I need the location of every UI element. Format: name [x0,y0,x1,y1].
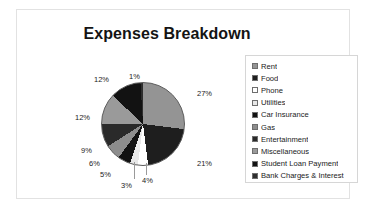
legend-label-phone: Phone [261,86,283,95]
legend-item-bank-charges-interest[interactable]: Bank Charges & Interest [252,170,357,182]
legend-label-car-insurance: Car Insurance [261,110,309,119]
legend-label-utilities: Utilities [261,98,285,107]
legend-swatch-bank-charges-interest [252,173,258,179]
chart-title: Expenses Breakdown [17,25,317,43]
legend-item-miscellaneous[interactable]: Miscellaneous [252,145,357,157]
legend-label-student-loan-payment: Student Loan Payment [261,159,338,168]
legend-swatch-car-insurance [252,112,258,118]
legend-swatch-gas [252,124,258,130]
legend-label-gas: Gas [261,123,275,132]
legend-label-miscellaneous: Miscellaneous [261,147,309,156]
legend-item-utilities[interactable]: Utilities [252,97,357,109]
legend-item-phone[interactable]: Phone [252,84,357,96]
pie-label-food: 21% [197,159,212,168]
legend-item-gas[interactable]: Gas [252,121,357,133]
legend-item-food[interactable]: Food [252,72,357,84]
pie-label-utilities: 3% [121,181,132,190]
leader-line-phone [146,163,147,175]
legend-item-entertainment[interactable]: Entertainment [252,133,357,145]
pie-label-rent: 27% [197,89,212,98]
legend-item-rent[interactable]: Rent [252,60,357,72]
legend-item-student-loan-payment[interactable]: Student Loan Payment [252,158,357,170]
pie-label-student-loan: 12% [94,75,109,84]
pie-label-entertainment: 9% [81,146,92,155]
pie-label-miscellaneous: 12% [75,113,90,122]
pie-label-gas: 6% [89,159,100,168]
chart-legend: Rent Food Phone Utilities Car Insurance … [245,55,358,183]
legend-label-bank-charges-interest: Bank Charges & Interest [261,171,344,180]
slide-canvas: Expenses Breakdown 27% 21% 4% 3% 5% 6% 9… [0,0,370,211]
legend-swatch-miscellaneous [252,148,258,154]
legend-swatch-student-loan-payment [252,161,258,167]
slide-frame: Expenses Breakdown 27% 21% 4% 3% 5% 6% 9… [16,9,350,199]
legend-label-food: Food [261,74,278,83]
legend-swatch-entertainment [252,136,258,142]
legend-item-car-insurance[interactable]: Car Insurance [252,109,357,121]
legend-label-entertainment: Entertainment [261,135,308,144]
legend-swatch-food [252,75,258,81]
pie-label-bank-charges: 1% [129,72,140,81]
pie-graphic [101,82,185,166]
pie-label-phone: 4% [142,176,153,185]
legend-swatch-rent [252,63,258,69]
pie-label-car-insurance: 5% [100,170,111,179]
legend-label-rent: Rent [261,62,277,71]
pie-chart: 27% 21% 4% 3% 5% 6% 9% 12% 12% 1% [45,62,250,207]
leader-line-utilities [134,162,135,179]
legend-swatch-phone [252,87,258,93]
legend-swatch-utilities [252,100,258,106]
